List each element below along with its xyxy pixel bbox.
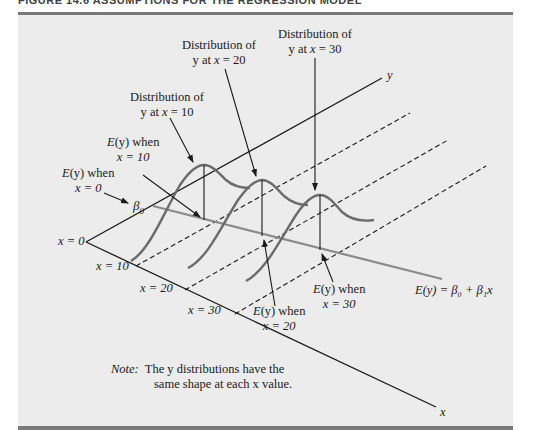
tick-x30: x = 30: [188, 303, 221, 318]
distribution-curve-x30: [246, 195, 374, 281]
note-line2: same shape at each x value.: [111, 377, 292, 392]
label-ey-x10: E(y) when x = 10: [107, 135, 159, 165]
note: Note: The y distributions have the same …: [111, 362, 292, 392]
arrow-dist-x10: [170, 118, 193, 162]
arrow-dist-x20: [225, 69, 256, 176]
label-ey-x0-line2: x = 0: [62, 181, 114, 196]
label-ey-x30-line2: x = 30: [313, 297, 365, 312]
x-axis-label: x: [440, 405, 446, 420]
label-dist-x30: Distribution of y at x = 30: [278, 27, 352, 57]
label-dist-x20-line1: Distribution of: [182, 38, 256, 53]
tick-x10: x = 10: [96, 259, 129, 274]
label-ey-x30-line1: E(y) when: [313, 282, 365, 297]
label-dist-x30-line2: y at x = 30: [278, 42, 352, 57]
note-line1: Note: The y distributions have the: [111, 362, 292, 377]
label-ey-x10-line1: E(y) when: [107, 135, 159, 150]
label-dist-x10: Distribution of y at x = 10: [130, 90, 204, 120]
label-ey-x10-line2: x = 10: [107, 150, 159, 165]
dashed-line-x20: [185, 140, 448, 290]
label-dist-x10-line1: Distribution of: [130, 90, 204, 105]
tick-x20: x = 20: [140, 281, 173, 296]
label-ey-x20-line1: E(y) when: [253, 304, 305, 319]
label-dist-x20: Distribution of y at x = 20: [182, 38, 256, 68]
label-dist-x20-line2: y at x = 20: [182, 53, 256, 68]
label-ey-x0: E(y) when x = 0: [62, 166, 114, 196]
label-ey-x20-line2: x = 20: [253, 319, 305, 334]
y-axis-label: y: [387, 68, 393, 83]
label-ey-x30: E(y) when x = 30: [313, 282, 365, 312]
label-dist-x10-line2: y at x = 10: [130, 105, 204, 120]
regression-line: [153, 206, 442, 279]
tick-x0: x = 0: [58, 234, 84, 249]
regression-equation: E(y) = β₀ + β₁x: [415, 283, 493, 298]
label-dist-x30-line1: Distribution of: [278, 27, 352, 42]
label-ey-x20: E(y) when x = 20: [253, 304, 305, 334]
beta0-label: β0: [133, 198, 144, 219]
arrow-ey-x30: [322, 254, 333, 282]
label-ey-x0-line1: E(y) when: [62, 166, 114, 181]
